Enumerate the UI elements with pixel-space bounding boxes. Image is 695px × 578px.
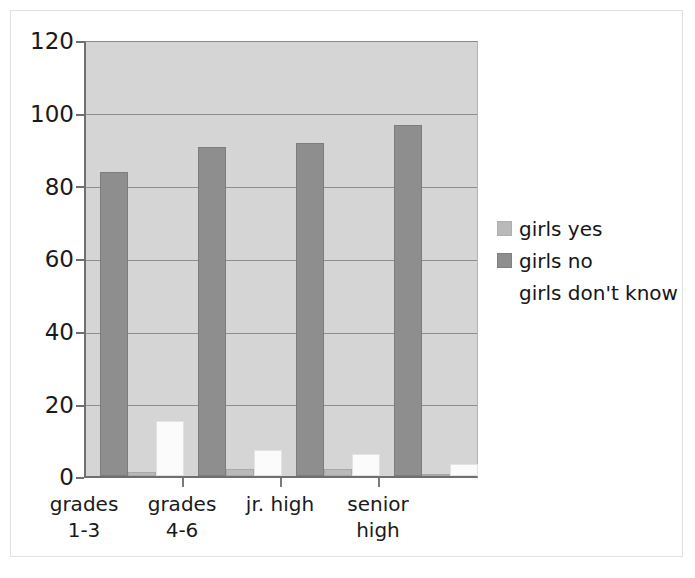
bar-girls-yes-grades-4-6[interactable] (226, 469, 254, 476)
y-tick-mark-80 (76, 186, 84, 188)
y-tick-label-20: 20 (14, 394, 74, 417)
bar-girls-no-senior-high[interactable] (394, 125, 422, 476)
bar-girls-yes-jr-high[interactable] (324, 469, 352, 476)
bar-group-grades-4-6 (184, 42, 282, 476)
bar-group-jr-high (282, 42, 380, 476)
legend-item-girls-no[interactable]: girls no (497, 248, 687, 275)
bar-group-senior-high (380, 42, 478, 476)
y-tick-label-60: 60 (14, 248, 74, 271)
legend-item-girls-yes[interactable]: girls yes (497, 216, 687, 243)
bar-girls-dont-know-senior-high[interactable] (450, 464, 478, 476)
bar-girls-dont-know-jr-high[interactable] (352, 454, 380, 476)
legend-swatch-girls-dont-know-icon (497, 285, 512, 300)
x-axis-label-senior-high: senior high (318, 492, 438, 543)
bar-group-grades-1-3 (86, 42, 184, 476)
x-tick-mark-3 (378, 478, 380, 487)
y-tick-mark-60 (76, 259, 84, 261)
y-tick-label-0: 0 (14, 466, 74, 489)
legend-swatch-girls-no-icon (497, 253, 512, 268)
plot-area (84, 41, 478, 478)
legend-swatch-girls-yes-icon (497, 221, 512, 236)
x-axis-label-line2: 4-6 (122, 518, 242, 544)
bar-girls-no-grades-1-3[interactable] (100, 172, 128, 476)
bar-girls-yes-grades-1-3[interactable] (128, 472, 156, 476)
legend-item-girls-dont-know[interactable]: girls don't know (497, 280, 687, 307)
x-axis-label-line2: high (318, 518, 438, 544)
bar-girls-yes-senior-high[interactable] (422, 474, 450, 476)
y-tick-mark-0 (76, 477, 84, 479)
bar-girls-dont-know-grades-4-6[interactable] (254, 450, 282, 476)
y-tick-mark-120 (76, 41, 84, 43)
y-tick-mark-100 (76, 114, 84, 116)
y-tick-mark-20 (76, 405, 84, 407)
y-tick-label-100: 100 (14, 103, 74, 126)
y-tick-mark-40 (76, 332, 84, 334)
x-axis-label-line1: senior (318, 492, 438, 518)
x-tick-mark-2 (280, 478, 282, 487)
legend-label-girls-no: girls no (519, 248, 593, 274)
y-tick-label-80: 80 (14, 176, 74, 199)
bar-girls-no-grades-4-6[interactable] (198, 147, 226, 476)
legend-label-girls-dont-know: girls don't know (519, 280, 678, 306)
y-tick-label-120: 120 (14, 30, 74, 53)
legend-label-girls-yes: girls yes (519, 216, 602, 242)
bar-girls-no-jr-high[interactable] (296, 143, 324, 476)
bar-girls-dont-know-grades-1-3[interactable] (156, 421, 184, 476)
y-tick-label-40: 40 (14, 321, 74, 344)
legend: girls yes girls no girls don't know (497, 216, 687, 312)
x-tick-mark-1 (182, 478, 184, 487)
bar-chart-figure: 120 100 80 60 40 20 0 (0, 0, 695, 578)
